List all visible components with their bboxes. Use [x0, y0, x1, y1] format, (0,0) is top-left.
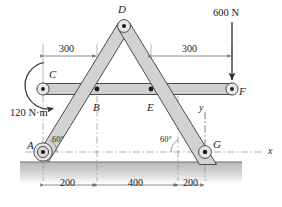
- joint-label-E: E: [147, 102, 154, 113]
- joint-B: [95, 87, 100, 92]
- member-CF: [43, 84, 232, 95]
- dimension-label-200-right: 200: [183, 178, 198, 188]
- joint-F: [226, 83, 238, 95]
- joint-label-B: B: [93, 102, 100, 113]
- joint-label-A: A: [27, 140, 34, 151]
- joint-D: [118, 20, 131, 33]
- joint-E: [149, 87, 154, 92]
- angle-label-G: 60°: [160, 135, 172, 144]
- angle-arcs: [50, 140, 178, 152]
- dimension-label-200-left: 200: [60, 178, 75, 188]
- joint-C: [37, 83, 49, 95]
- dimension-label-300-right: 300: [182, 44, 197, 54]
- joint-label-D: D: [118, 4, 126, 15]
- angle-label-A: 60°: [52, 135, 64, 144]
- joint-label-G: G: [213, 139, 221, 150]
- joint-A: [34, 143, 52, 161]
- statics-frame-diagram: D C F B E A G 600 N 120 N·m 300 300 200 …: [0, 0, 282, 207]
- joint-label-F: F: [239, 86, 246, 97]
- force-label-600N: 600 N: [213, 8, 239, 19]
- axis-label-y: y: [199, 103, 203, 113]
- dimension-label-400-middle: 400: [128, 178, 143, 188]
- axis-label-x: x: [268, 146, 272, 156]
- joint-G: [199, 146, 212, 159]
- couple-label-120Nm: 120 N·m: [10, 108, 48, 119]
- diagram-canvas: [0, 0, 282, 207]
- joint-label-C: C: [49, 69, 56, 80]
- dimension-label-300-left: 300: [59, 44, 74, 54]
